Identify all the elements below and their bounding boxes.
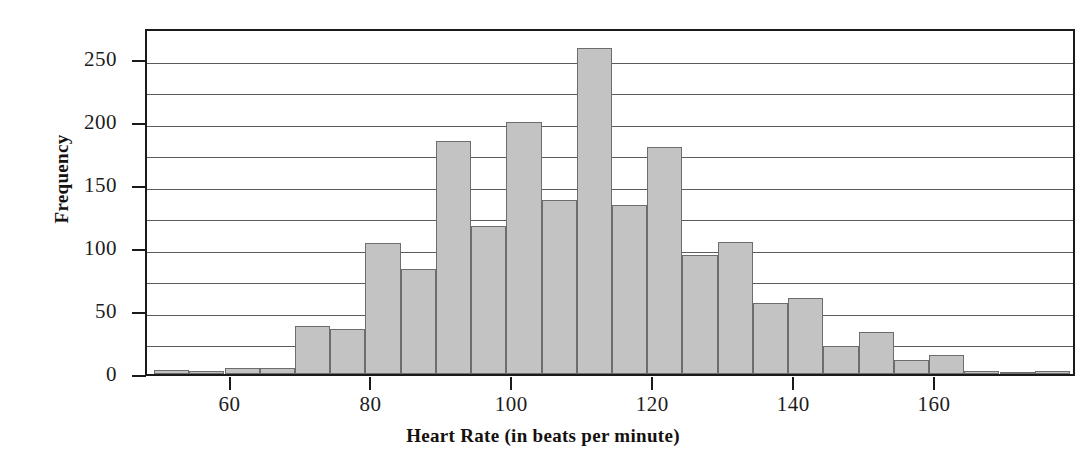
histogram-figure: Frequency 050100150200250 60801001201401… [0, 0, 1086, 468]
histogram-bar [436, 141, 471, 374]
x-axis-tick [933, 377, 935, 390]
histogram-bar [189, 371, 224, 374]
bars-layer [147, 31, 1073, 374]
histogram-bar [1000, 372, 1035, 374]
histogram-bar [401, 269, 436, 374]
histogram-bar [929, 355, 964, 374]
histogram-bar [542, 200, 577, 374]
histogram-bar [859, 332, 894, 374]
histogram-bar [225, 368, 260, 374]
y-axis-tick-label: 50 [57, 299, 117, 324]
x-axis-tick [369, 377, 371, 390]
x-axis-tick-label: 140 [758, 392, 828, 417]
histogram-bar [718, 242, 753, 374]
histogram-bar [365, 243, 400, 374]
y-axis-tick-label: 250 [57, 47, 117, 72]
histogram-bar [295, 326, 330, 374]
x-axis-tick [792, 377, 794, 390]
histogram-bar [154, 370, 189, 374]
x-axis-tick [229, 377, 231, 390]
histogram-bar [894, 360, 929, 374]
y-axis-tick-label: 100 [57, 236, 117, 261]
histogram-bar [1035, 371, 1070, 374]
y-axis-tick [132, 186, 146, 188]
histogram-bar [330, 329, 365, 374]
y-axis-tick [132, 60, 146, 62]
histogram-bar [682, 255, 717, 374]
x-axis-tick-label: 120 [617, 392, 687, 417]
histogram-bar [647, 147, 682, 374]
histogram-bar [577, 48, 612, 374]
x-axis-tick-label: 100 [476, 392, 546, 417]
y-axis-tick-label: 0 [57, 362, 117, 387]
x-axis-tick-label: 80 [335, 392, 405, 417]
histogram-bar [823, 346, 858, 374]
histogram-bar [612, 205, 647, 374]
y-axis-tick [132, 249, 146, 251]
y-axis-tick [132, 375, 146, 377]
x-axis-tick-label: 60 [195, 392, 265, 417]
histogram-bar [506, 122, 541, 374]
y-axis-tick [132, 312, 146, 314]
plot-area [145, 29, 1075, 376]
histogram-bar [471, 226, 506, 374]
x-axis-tick-label: 160 [899, 392, 969, 417]
histogram-bar [260, 368, 295, 374]
y-axis-tick-label: 200 [57, 110, 117, 135]
x-axis-tick [651, 377, 653, 390]
y-axis-tick-label: 150 [57, 173, 117, 198]
x-axis-tick [510, 377, 512, 390]
x-axis-title: Heart Rate (in beats per minute) [0, 425, 1086, 447]
histogram-bar [753, 303, 788, 374]
histogram-bar [964, 371, 999, 374]
histogram-bar [788, 298, 823, 374]
y-axis-tick [132, 123, 146, 125]
